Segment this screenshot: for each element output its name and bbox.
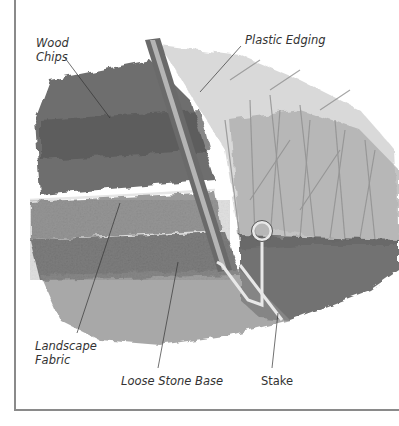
label-loose-stone-base: Loose Stone Base: [121, 374, 223, 388]
label-wood-chips: Wood Chips: [36, 36, 69, 64]
label-landscape-fabric: Landscape Fabric: [35, 339, 97, 367]
label-plastic-edging: Plastic Edging: [245, 33, 326, 47]
label-stake: Stake: [261, 374, 293, 388]
